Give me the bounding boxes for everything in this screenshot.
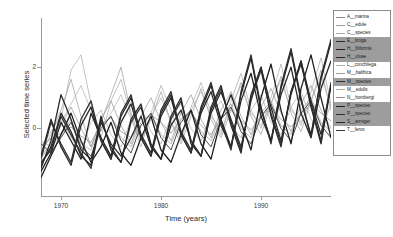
- x-axis-line: [41, 196, 331, 197]
- legend-item-label: C__edule: [347, 23, 366, 28]
- x-tick-mark: [161, 196, 162, 200]
- legend-line-swatch: [336, 33, 345, 34]
- legend-item[interactable]: L__conchilega: [334, 62, 390, 70]
- legend-item[interactable]: N__hombergi: [334, 94, 390, 102]
- legend-item-label: M__edulis: [347, 88, 368, 93]
- legend-item-label: E__longa: [347, 39, 366, 44]
- x-tick-mark: [61, 196, 62, 200]
- x-tick-label: 1980: [154, 202, 168, 209]
- legend-item[interactable]: C__species: [334, 29, 390, 37]
- legend-line-swatch: [336, 17, 345, 18]
- x-tick-label: 1990: [254, 202, 268, 209]
- legend-item[interactable]: M__species: [334, 78, 390, 86]
- legend-item-label: P__species: [347, 104, 370, 109]
- x-axis-title: Time (years): [41, 214, 331, 223]
- legend-item-label: T__ferox: [347, 128, 365, 133]
- plot-area: [41, 18, 331, 196]
- legend-item[interactable]: P__species: [334, 102, 390, 110]
- legend-item[interactable]: T__ferox: [334, 126, 390, 134]
- legend-item[interactable]: M__edulis: [334, 86, 390, 94]
- legend-item-label: C__species: [347, 31, 371, 36]
- legend[interactable]: A__marinaC__eduleC__speciesE__longaH__fi…: [333, 10, 391, 156]
- legend-line-swatch: [336, 114, 345, 115]
- legend-item-label: N__hombergi: [347, 96, 374, 101]
- legend-item[interactable]: E__longa: [334, 37, 390, 45]
- legend-item-label: S__armiger: [347, 120, 370, 125]
- legend-line-swatch: [336, 73, 345, 74]
- legend-line-swatch: [336, 49, 345, 50]
- legend-item-label: P__species: [347, 112, 370, 117]
- legend-item[interactable]: A__marina: [334, 13, 390, 21]
- legend-item-label: M__species: [347, 80, 371, 85]
- legend-item[interactable]: M__balthica: [334, 70, 390, 78]
- legend-line-swatch: [336, 25, 345, 26]
- legend-line-swatch: [336, 89, 345, 90]
- legend-item-label: H__filiformis: [347, 47, 372, 52]
- x-tick-mark: [261, 196, 262, 200]
- legend-item[interactable]: H__ulvae: [334, 53, 390, 61]
- x-tick-label: 1970: [54, 202, 68, 209]
- legend-item[interactable]: H__filiformis: [334, 45, 390, 53]
- legend-line-swatch: [336, 106, 345, 107]
- chart-figure: 02 197019801990 Selected time series Tim…: [0, 0, 393, 237]
- legend-line-swatch: [336, 41, 345, 42]
- legend-item-label: L__conchilega: [347, 63, 376, 68]
- series-lines: [41, 18, 331, 196]
- legend-line-swatch: [336, 122, 345, 123]
- legend-item[interactable]: P__species: [334, 110, 390, 118]
- legend-line-swatch: [336, 65, 345, 66]
- legend-item[interactable]: S__armiger: [334, 118, 390, 126]
- legend-line-swatch: [336, 57, 345, 58]
- y-axis-title: Selected time series: [22, 30, 31, 180]
- legend-line-swatch: [336, 97, 345, 98]
- legend-line-swatch: [336, 81, 345, 82]
- legend-line-swatch: [336, 130, 345, 131]
- legend-item[interactable]: C__edule: [334, 21, 390, 29]
- legend-item-label: M__balthica: [347, 71, 371, 76]
- legend-item-label: H__ulvae: [347, 55, 366, 60]
- legend-item-label: A__marina: [347, 15, 369, 20]
